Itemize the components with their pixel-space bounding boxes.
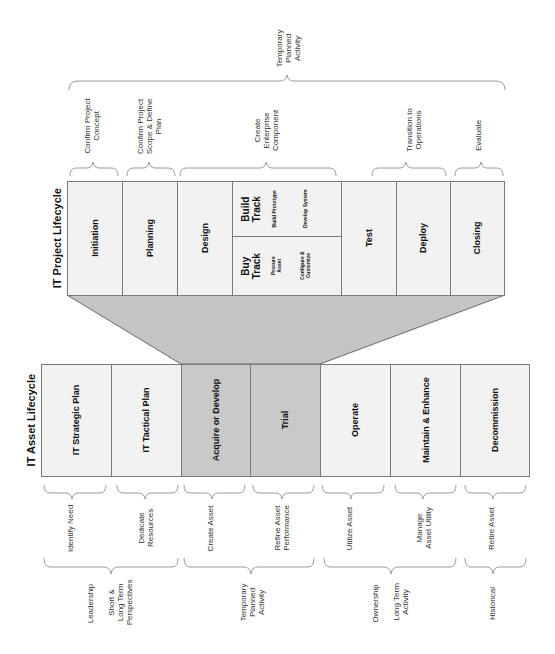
group-ownership: Ownership (368, 578, 384, 628)
group-ownership-sub: Long Term Activity (388, 576, 416, 628)
purpose-manage-utility: Manage Asset Utility (410, 502, 440, 554)
phase-deploy: Deploy (396, 181, 451, 296)
phase-trial: Trial (250, 364, 321, 477)
lifecycle-connector (67, 295, 505, 364)
phase-initiation: Initiation (67, 181, 123, 296)
group-leadership: Leadership (84, 578, 100, 628)
phase-operate: Operate (320, 364, 391, 477)
build-step-develop: Develop System (299, 182, 311, 236)
buy-track-label: Buy Track (235, 237, 267, 295)
buy-step-configure: Configure & Customize (296, 237, 314, 295)
buy-track: Buy Track Procure Asset Configure & Cust… (232, 236, 342, 296)
purpose-refine-performance: Refine Asset Performance (268, 502, 298, 554)
build-track: Build Track Build Prototype Develop Syst… (232, 181, 342, 237)
phase-planning: Planning (122, 181, 178, 296)
group-historical: Historical (485, 578, 501, 628)
purpose-utilize-asset: Utilize Asset (343, 502, 359, 554)
build-track-label: Build Track (235, 182, 267, 236)
phase-acquire-develop: Acquire or Develop (181, 364, 251, 477)
purpose-deploy: Transition to Operations (400, 105, 430, 155)
project-group-label: Temporary Planned Activity (270, 20, 310, 76)
purpose-retire-asset: Retire Asset (485, 502, 501, 554)
asset-lifecycle-title: IT Asset Lifecycle (22, 364, 40, 476)
purpose-design: Create Enterprise Component (248, 105, 288, 155)
build-step-prototype: Build Prototype (269, 182, 281, 236)
phase-tactical-plan: IT Tactical Plan (111, 364, 182, 477)
purpose-create-asset: Create Asset (204, 502, 220, 554)
purpose-initiation: Confirm Project Concept (78, 94, 108, 158)
purpose-closing: Evaluate (470, 115, 490, 155)
buy-step-procure: Procure Asset (269, 237, 283, 295)
phase-decommission: Decommission (460, 364, 530, 477)
phase-test: Test (341, 181, 397, 296)
phase-strategic-plan: IT Strategic Plan (41, 364, 112, 477)
phase-maintain-enhance: Maintain & Enhance (390, 364, 461, 477)
group-temporary: Temporary Planned Activity (234, 576, 274, 628)
phase-design: Design (177, 181, 233, 296)
project-lifecycle-title: IT Project Lifecycle (48, 181, 66, 295)
phase-closing: Closing (450, 181, 505, 296)
purpose-planning: Confirm Project Scope & Define Plan (131, 94, 171, 158)
group-leadership-sub: Short & Long Term Perspectives (104, 574, 140, 630)
purpose-identify-need: Identify Need (64, 502, 80, 554)
purpose-dedicate-resources: Dedicate Resources (132, 502, 162, 554)
